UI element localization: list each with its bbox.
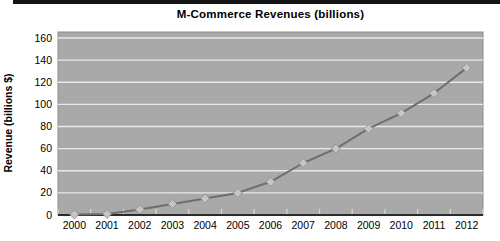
line-chart: 0204060801001201401602000200120022003200…: [0, 0, 500, 241]
x-tick-label-2002: 2002: [128, 219, 152, 231]
plot-area: [58, 32, 483, 215]
x-tick-label-2005: 2005: [226, 219, 250, 231]
y-tick-label-40: 40: [40, 164, 52, 176]
x-tick-label-2012: 2012: [455, 219, 479, 231]
x-tick-label-2007: 2007: [292, 219, 316, 231]
y-tick-label-80: 80: [40, 120, 52, 132]
y-tick-label-160: 160: [34, 32, 52, 44]
y-tick-label-140: 140: [34, 54, 52, 66]
x-tick-label-2003: 2003: [161, 219, 185, 231]
x-tick-label-2008: 2008: [324, 219, 348, 231]
x-tick-label-2006: 2006: [259, 219, 283, 231]
x-tick-label-2009: 2009: [357, 219, 381, 231]
x-tick-label-2001: 2001: [95, 219, 119, 231]
y-tick-label-120: 120: [34, 76, 52, 88]
y-tick-label-20: 20: [40, 186, 52, 198]
x-tick-label-2011: 2011: [423, 219, 446, 231]
x-tick-label-2004: 2004: [193, 219, 217, 231]
y-tick-label-0: 0: [46, 209, 52, 221]
y-tick-label-60: 60: [40, 142, 52, 154]
x-tick-label-2010: 2010: [390, 219, 414, 231]
chart-window: M-Commerce Revenues (billions) Revenue (…: [0, 0, 500, 241]
y-tick-label-100: 100: [34, 98, 52, 110]
x-tick-label-2000: 2000: [63, 219, 87, 231]
